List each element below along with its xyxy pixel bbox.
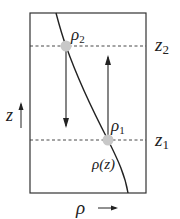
arrow-up-icon (105, 55, 111, 65)
label-curve: ρ(z) (92, 157, 115, 172)
column-box (30, 13, 146, 193)
arrow-down-icon (63, 118, 69, 128)
label-rho1: ρ1 (111, 117, 125, 136)
label-z-axis: z (6, 106, 13, 124)
label-z2: z2 (155, 35, 169, 56)
label-rho-axis: ρ (76, 198, 85, 217)
rho-axis-arrow-icon (111, 206, 118, 211)
density-profile-diagram (0, 0, 180, 219)
label-z1: z1 (155, 130, 169, 151)
label-rho2: ρ2 (71, 26, 85, 45)
point-rho1 (103, 135, 114, 146)
z-axis-arrow-icon (19, 102, 24, 110)
point-rho2 (61, 41, 72, 52)
